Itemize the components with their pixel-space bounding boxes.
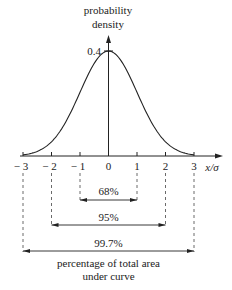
- x-axis-arrow-icon: [215, 154, 223, 159]
- y-axis-label-line1: probability: [84, 4, 133, 16]
- y-axis-label-line2: density: [92, 18, 124, 30]
- normal-distribution-chart: probability density 0.4 x/σ − 3 − 2 − 1 …: [0, 0, 232, 290]
- range-99.7-arrow: [23, 249, 194, 253]
- x-tick-label-neg1: − 1: [71, 160, 85, 172]
- y-tick-label: 0.4: [87, 45, 101, 57]
- y-axis-arrow-icon: [106, 35, 111, 43]
- x-tick-label-0: 0: [106, 160, 112, 172]
- x-axis-label: x/σ: [204, 161, 219, 173]
- range-99.7-label: 99.7%: [94, 237, 122, 249]
- x-tick-label-2: 2: [163, 160, 169, 172]
- x-tick-label-1: 1: [134, 160, 140, 172]
- x-tick-label-3: 3: [191, 160, 197, 172]
- x-tick-label-neg2: − 2: [42, 160, 56, 172]
- x-tick-label-neg3: − 3: [14, 160, 29, 172]
- caption-line1: percentage of total area: [57, 257, 160, 269]
- range-68-arrow: [80, 198, 137, 202]
- caption-line2: under curve: [82, 270, 134, 282]
- range-95-arrow: [52, 223, 166, 227]
- range-68-label: 68%: [98, 185, 118, 197]
- range-95-label: 95%: [98, 211, 118, 223]
